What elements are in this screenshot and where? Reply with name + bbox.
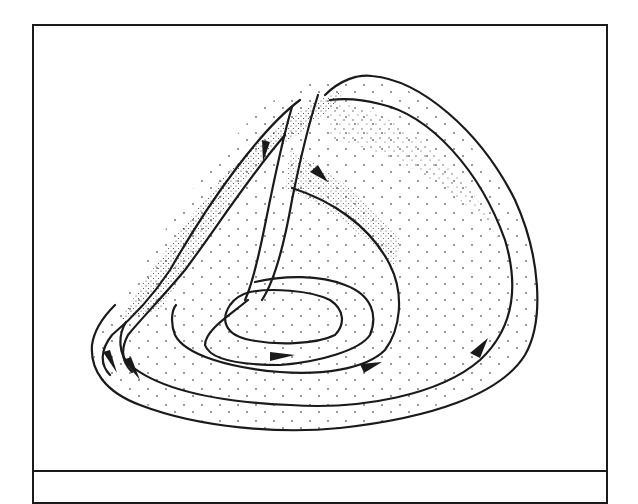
stipple-shading <box>93 76 537 433</box>
